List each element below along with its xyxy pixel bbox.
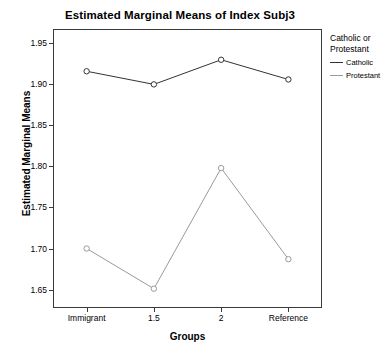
x-tick-label: Reference [243,313,333,323]
data-point-marker [84,69,89,74]
x-tick-mark [154,308,155,312]
data-point-marker [286,77,291,82]
x-tick-mark [87,308,88,312]
data-point-marker [286,256,291,261]
series-catholic [84,57,291,87]
legend-entries: CatholicProtestant [330,58,390,80]
series-line [87,60,289,85]
data-point-marker [218,165,223,170]
plot-series-layer [53,29,322,308]
chart-title: Estimated Marginal Means of Index Subj3 [0,9,360,21]
y-tick-label: 1.65 [17,285,47,295]
data-point-marker [151,286,156,291]
legend-label: Catholic [346,58,373,67]
series-line [87,168,289,289]
data-point-marker [151,82,156,87]
y-tick-label: 1.85 [17,120,47,130]
x-axis-title: Groups [53,331,322,342]
y-tick-label: 1.80 [17,161,47,171]
x-tick-mark [221,308,222,312]
estimated-marginal-means-chart: Estimated Marginal Means of Index Subj3 … [0,0,391,360]
series-protestant [84,165,291,291]
legend-label: Protestant [346,71,380,80]
y-tick-label: 1.70 [17,244,47,254]
data-point-marker [218,57,223,62]
y-axis-title: Estimated Marginal Means [21,64,32,244]
legend-line-swatch-icon [330,59,343,66]
legend-title: Catholic or Protestant [330,33,388,54]
legend-entry-protestant: Protestant [330,71,390,80]
legend-entry-catholic: Catholic [330,58,390,67]
legend: Catholic or Protestant CatholicProtestan… [330,33,390,80]
data-point-marker [84,246,89,251]
y-tick-label: 1.75 [17,202,47,212]
y-tick-label: 1.95 [17,38,47,48]
x-tick-mark [288,308,289,312]
legend-line-swatch-icon [330,72,343,79]
y-tick-label: 1.90 [17,79,47,89]
